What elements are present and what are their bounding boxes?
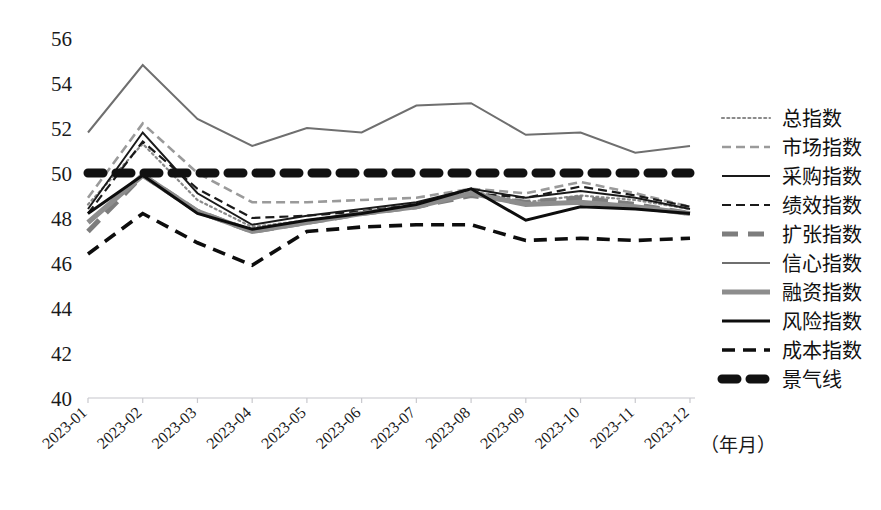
y-axis-tick-label: 40 bbox=[51, 387, 72, 411]
y-axis-tick-label: 56 bbox=[51, 27, 72, 51]
legend-item-label: 风险指数 bbox=[782, 311, 862, 333]
chart-container: 404244464850525456 2023-012023-022023-03… bbox=[0, 0, 881, 510]
legend-item-label: 融资指数 bbox=[782, 282, 862, 304]
legend-item-label: 成本指数 bbox=[782, 340, 862, 362]
line-chart: 404244464850525456 2023-012023-022023-03… bbox=[0, 0, 881, 510]
x-axis-title: （年月） bbox=[700, 435, 776, 456]
x-axis-title-group: （年月） bbox=[700, 435, 776, 456]
legend-item-label: 市场指数 bbox=[782, 137, 862, 159]
y-axis-tick-label: 54 bbox=[51, 72, 73, 96]
y-axis-tick-label: 50 bbox=[51, 162, 72, 186]
legend-item-label: 采购指数 bbox=[782, 166, 862, 188]
legend-item-label: 扩张指数 bbox=[782, 224, 862, 246]
y-axis-tick-label: 42 bbox=[51, 342, 72, 366]
legend-item-label: 绩效指数 bbox=[782, 195, 862, 217]
y-axis-tick-label: 44 bbox=[51, 297, 73, 321]
y-axis-tick-label: 46 bbox=[51, 252, 72, 276]
y-axis-tick-label: 52 bbox=[51, 117, 72, 141]
y-axis-tick-label: 48 bbox=[51, 207, 72, 231]
legend-item-label: 信心指数 bbox=[782, 253, 862, 275]
legend-item-label: 总指数 bbox=[782, 108, 842, 130]
legend-item-label: 景气线 bbox=[782, 369, 842, 391]
